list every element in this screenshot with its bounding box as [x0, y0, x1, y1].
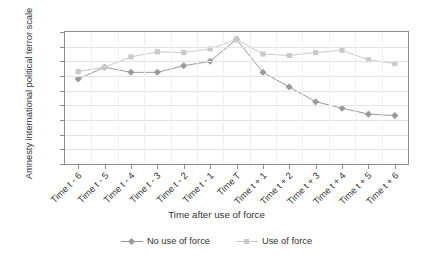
x-axis-tick-mark	[184, 165, 185, 169]
series-line-no-use-of-force	[78, 39, 395, 115]
square-marker-icon	[244, 239, 249, 244]
square-marker-icon	[260, 51, 265, 56]
x-axis-title: Time after use of force	[0, 209, 433, 220]
x-axis-tick-mark	[105, 165, 106, 169]
x-axis-tick-mark	[263, 165, 264, 169]
plot-area	[64, 31, 409, 165]
x-axis-tick-mark	[237, 165, 238, 169]
x-axis-tick-mark	[210, 165, 211, 169]
legend-label-no-use-of-force: No use of force	[147, 236, 210, 246]
legend-line-use-of-force	[236, 241, 258, 242]
square-marker-icon	[128, 54, 133, 59]
square-marker-icon	[339, 48, 344, 53]
x-axis-tick-mark	[289, 165, 290, 169]
legend-item-no-use-of-force[interactable]: No use of force	[121, 236, 210, 246]
gridline-vertical	[223, 32, 224, 164]
gridline-vertical	[355, 32, 356, 164]
gridline	[65, 149, 408, 150]
x-axis-tick-mark	[342, 165, 343, 169]
legend-line-no-use-of-force	[121, 241, 143, 242]
square-marker-icon	[287, 53, 292, 58]
legend-item-use-of-force[interactable]: Use of force	[236, 236, 312, 246]
series-line-use-of-force	[78, 39, 395, 71]
x-axis-tick-mark	[368, 165, 369, 169]
gridline-vertical	[250, 32, 251, 164]
square-marker-icon	[102, 65, 107, 70]
y-axis-title: Amnesty international political terror s…	[23, 4, 34, 184]
diamond-marker-icon	[312, 98, 319, 105]
diamond-marker-icon	[365, 111, 372, 118]
x-axis-tick-mark	[131, 165, 132, 169]
gridline-vertical	[382, 32, 383, 164]
square-marker-icon	[155, 49, 160, 54]
gridline-vertical	[91, 32, 92, 164]
gridline	[65, 76, 408, 77]
gridline-vertical	[144, 32, 145, 164]
x-axis-tick-mark	[395, 165, 396, 169]
square-marker-icon	[76, 69, 81, 74]
x-axis-tick-mark	[157, 165, 158, 169]
data-series-layer	[65, 32, 408, 164]
gridline	[65, 135, 408, 136]
gridline-vertical	[329, 32, 330, 164]
gridline	[65, 47, 408, 48]
diamond-marker-icon	[128, 237, 135, 244]
diamond-marker-icon	[127, 69, 134, 76]
square-marker-icon	[181, 50, 186, 55]
gridline	[65, 91, 408, 92]
square-marker-icon	[234, 37, 239, 42]
x-axis-tick-mark	[316, 165, 317, 169]
gridline-vertical	[302, 32, 303, 164]
gridline	[65, 61, 408, 62]
gridline-vertical	[197, 32, 198, 164]
x-axis-tick-mark	[78, 165, 79, 169]
legend-label-use-of-force: Use of force	[262, 236, 312, 246]
diamond-marker-icon	[391, 112, 398, 119]
chart-container: Amnesty international political terror s…	[0, 0, 433, 260]
gridline-vertical	[118, 32, 119, 164]
chart-legend: No use of force Use of force	[0, 236, 433, 246]
diamond-marker-icon	[180, 62, 187, 69]
square-marker-icon	[313, 50, 318, 55]
diamond-marker-icon	[154, 69, 161, 76]
diamond-marker-icon	[286, 83, 293, 90]
gridline-vertical	[276, 32, 277, 164]
gridline	[65, 105, 408, 106]
gridline	[65, 120, 408, 121]
gridline-vertical	[171, 32, 172, 164]
